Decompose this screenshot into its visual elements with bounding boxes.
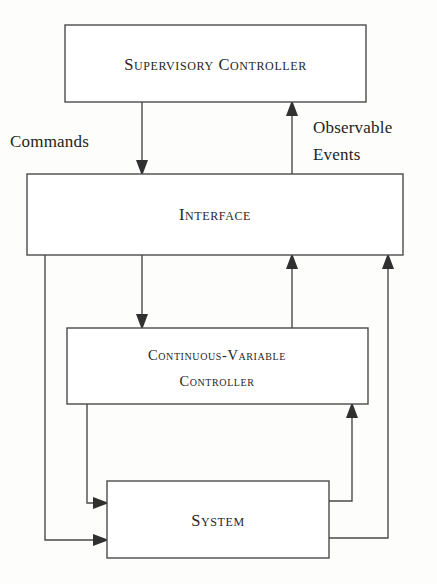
control-architecture-diagram: Supervisory Controller Interface Continu… — [0, 0, 437, 584]
supervisory-controller-label: Supervisory Controller — [124, 55, 307, 74]
system-label: System — [191, 511, 244, 530]
continuous-variable-controller-label-line2: Controller — [179, 373, 254, 389]
edge-label-layer: Commands Observable Events — [10, 118, 392, 164]
connection-layer — [45, 100, 394, 546]
block-interface[interactable]: Interface — [27, 174, 403, 255]
connection-system-to-cv-controller — [329, 409, 352, 501]
observable-events-label-line1: Observable — [313, 118, 392, 137]
connection-cv-controller-to-system — [87, 404, 102, 503]
commands-label: Commands — [10, 132, 89, 151]
block-system[interactable]: System — [107, 481, 329, 558]
continuous-variable-controller-label-line1: Continuous-Variable — [148, 347, 286, 363]
block-supervisory-controller[interactable]: Supervisory Controller — [65, 25, 366, 102]
interface-label: Interface — [179, 205, 251, 224]
diagram-canvas: Supervisory Controller Interface Continu… — [0, 0, 437, 584]
observable-events-label-line2: Events — [313, 145, 360, 164]
continuous-variable-controller-box[interactable] — [67, 328, 368, 404]
box-layer: Supervisory Controller Interface Continu… — [27, 25, 403, 558]
block-continuous-variable-controller[interactable]: Continuous-Variable Controller — [67, 328, 368, 404]
